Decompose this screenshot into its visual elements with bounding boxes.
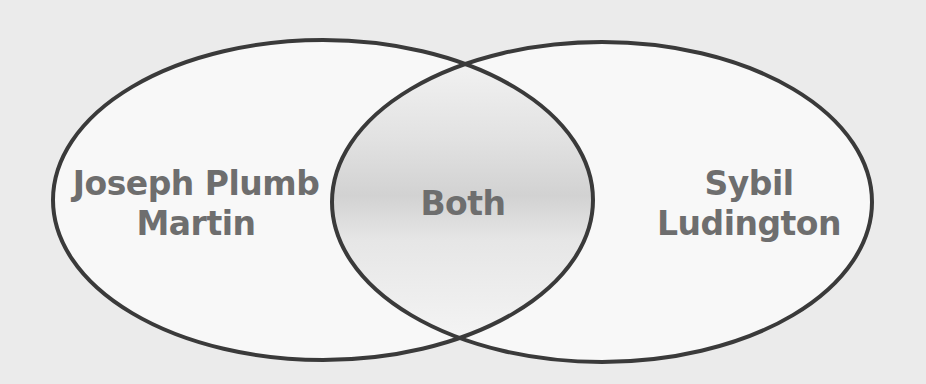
left-set-label: Joseph Plumb Martin [60, 164, 332, 244]
left-set-label-line-2: Martin [60, 204, 332, 244]
right-set-label-line-2: Ludington [634, 204, 864, 244]
right-set-label-line-1: Sybil [634, 164, 864, 204]
intersection-label-text: Both [398, 184, 528, 224]
right-set-label: Sybil Ludington [634, 164, 864, 244]
intersection-label: Both [398, 184, 528, 224]
left-set-label-line-1: Joseph Plumb [60, 164, 332, 204]
venn-diagram: Joseph Plumb Martin Both Sybil Ludington [0, 0, 926, 384]
